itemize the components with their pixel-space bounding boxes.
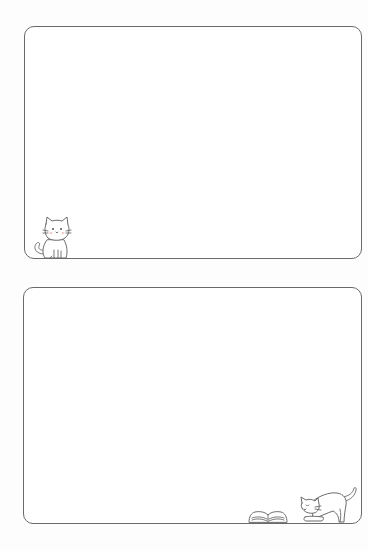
memo-page	[0, 0, 368, 551]
stretching-cat-icon	[299, 487, 359, 524]
sitting-cat-icon	[30, 214, 78, 260]
open-book-icon	[247, 509, 289, 524]
